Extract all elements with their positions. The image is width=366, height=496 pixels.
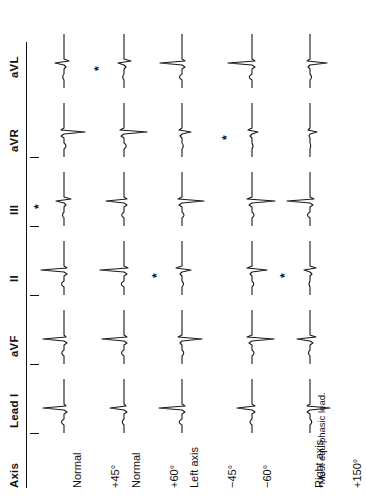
row-tick-2 bbox=[30, 364, 39, 365]
column-header-ii: II bbox=[8, 275, 20, 282]
equiphasic-star-r5-ii: * bbox=[282, 273, 288, 278]
equiphasic-star-r3-ii: * bbox=[154, 273, 160, 278]
ecg-cell-r4-ii bbox=[228, 240, 276, 296]
column-header-avr: aVR bbox=[8, 129, 20, 152]
ecg-cell-r4-lead-i bbox=[228, 378, 276, 434]
ecg-cell-r2-avr bbox=[100, 102, 148, 158]
row-tick-1 bbox=[30, 433, 39, 434]
equiphasic-star-r4-avr: * bbox=[224, 135, 230, 140]
ecg-cell-r5-avf bbox=[286, 309, 334, 365]
ecg-cell-r1-ii bbox=[40, 240, 88, 296]
equiphasic-star-r2-avl: * bbox=[96, 66, 102, 71]
ecg-cell-r4-avf bbox=[228, 309, 276, 365]
footnote: *Most equiphasic lead. bbox=[316, 392, 327, 488]
row-5-angle: +150° bbox=[351, 440, 364, 488]
ecg-cell-r2-iii bbox=[100, 171, 148, 227]
ecg-cell-r3-iii bbox=[158, 171, 206, 227]
ecg-cell-r4-avl bbox=[228, 33, 276, 89]
row-4-angle: −60° bbox=[261, 464, 274, 488]
ecg-cell-r1-iii: * bbox=[40, 171, 88, 227]
row-tick-3 bbox=[30, 295, 39, 296]
row-3-name: Left axis bbox=[188, 447, 201, 488]
ecg-cell-r1-avl bbox=[40, 33, 88, 89]
ecg-cell-r4-avr: * bbox=[228, 102, 276, 158]
column-header-iii: III bbox=[8, 205, 20, 215]
ecg-cell-r5-iii bbox=[286, 171, 334, 227]
ecg-cell-r1-lead-i bbox=[40, 378, 88, 434]
equiphasic-star-r1-iii: * bbox=[36, 204, 42, 209]
row-tick-4 bbox=[30, 226, 39, 227]
column-header-lead-i: Lead I bbox=[8, 394, 20, 428]
column-header-axis: Axis bbox=[8, 463, 20, 488]
column-header-avl: aVL bbox=[8, 56, 20, 78]
ecg-cell-r5-avl bbox=[286, 33, 334, 89]
ecg-cell-r3-ii: * bbox=[158, 240, 206, 296]
row-label-5: Right axis +150° bbox=[288, 440, 366, 488]
ecg-cell-r3-avr bbox=[158, 102, 206, 158]
ecg-cell-r3-lead-i bbox=[158, 378, 206, 434]
ecg-cell-r5-ii: * bbox=[286, 240, 334, 296]
ecg-cell-r1-avf bbox=[40, 309, 88, 365]
ecg-cell-r2-avf bbox=[100, 309, 148, 365]
ecg-cell-r5-avr bbox=[286, 102, 334, 158]
ecg-cell-r2-ii bbox=[100, 240, 148, 296]
ecg-cell-r3-avl bbox=[158, 33, 206, 89]
ecg-cell-r3-avf bbox=[158, 309, 206, 365]
ecg-cell-r2-lead-i bbox=[100, 378, 148, 434]
row-tick-5 bbox=[30, 157, 39, 158]
header-rule bbox=[26, 42, 27, 488]
column-header-avf: aVF bbox=[8, 335, 20, 357]
row-2-name: Normal bbox=[130, 453, 143, 488]
row-1-name: Normal bbox=[71, 453, 84, 488]
ecg-cell-r4-iii bbox=[228, 171, 276, 227]
ecg-cell-r2-avl: * bbox=[100, 33, 148, 89]
ecg-cell-r1-avr bbox=[40, 102, 88, 158]
